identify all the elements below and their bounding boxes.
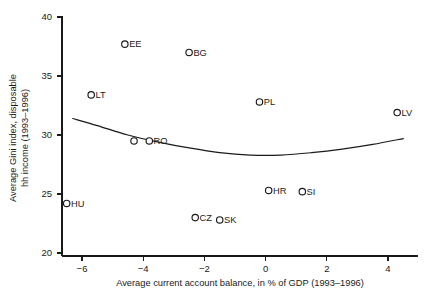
y-tick-label: 35 bbox=[41, 70, 52, 81]
x-tick-label: −4 bbox=[138, 263, 149, 274]
data-point-cz[interactable] bbox=[192, 214, 198, 220]
data-point-hu[interactable] bbox=[63, 200, 69, 206]
data-point-bg[interactable] bbox=[186, 49, 192, 55]
x-tick-label: −6 bbox=[77, 263, 88, 274]
x-axis-title: Average current account balance, in % of… bbox=[116, 278, 364, 288]
data-point-label-sk: SK bbox=[224, 215, 237, 225]
y-axis-title-line-1: Average Gini index, disposable bbox=[8, 74, 18, 202]
x-tick-label: 2 bbox=[324, 263, 329, 274]
data-points-group: HULTEEROBGCZSKPLHRSILV bbox=[63, 39, 412, 225]
data-point-lv[interactable] bbox=[394, 109, 400, 115]
data-point-sk[interactable] bbox=[217, 217, 223, 223]
fit-curve-group bbox=[73, 118, 403, 155]
y-tick-label: 30 bbox=[41, 129, 52, 140]
data-point-label-ee: EE bbox=[129, 39, 141, 49]
data-point-label-cz: CZ bbox=[200, 213, 213, 223]
data-point-unlabeled[interactable] bbox=[131, 138, 137, 144]
x-tick-label: 4 bbox=[385, 263, 390, 274]
data-point-label-si: SI bbox=[307, 187, 316, 197]
data-point-label-lt: LT bbox=[95, 90, 105, 100]
y-tick-label: 40 bbox=[41, 11, 52, 22]
y-tick-label: 20 bbox=[41, 247, 52, 258]
x-tick-label: −2 bbox=[199, 263, 210, 274]
plot-canvas: 2025303540 −6−4−2024 HULTEEROBGCZSKPLHRS… bbox=[0, 0, 425, 304]
y-axis-ticks: 2025303540 bbox=[41, 11, 62, 258]
data-point-lt[interactable] bbox=[88, 92, 94, 98]
data-point-label-bg: BG bbox=[193, 48, 206, 58]
x-axis-ticks: −6−4−2024 bbox=[77, 256, 391, 274]
quadratic-fit-curve bbox=[73, 118, 403, 155]
data-point-label-lv: LV bbox=[401, 108, 412, 118]
axes bbox=[62, 16, 418, 256]
data-point-ee[interactable] bbox=[122, 41, 128, 47]
x-tick-label: 0 bbox=[263, 263, 268, 274]
scatter-plot-figure: 2025303540 −6−4−2024 HULTEEROBGCZSKPLHRS… bbox=[0, 0, 425, 304]
data-point-label-hu: HU bbox=[71, 199, 84, 209]
data-point-ro[interactable] bbox=[146, 138, 152, 144]
data-point-label-ro: RO bbox=[154, 136, 168, 146]
data-point-hr[interactable] bbox=[265, 187, 271, 193]
data-point-label-hr: HR bbox=[273, 186, 287, 196]
data-point-si[interactable] bbox=[299, 188, 305, 194]
data-point-label-pl: PL bbox=[264, 97, 275, 107]
data-point-pl[interactable] bbox=[256, 99, 262, 105]
y-tick-label: 25 bbox=[41, 188, 52, 199]
y-axis-title-line-2: hh income (1993–1996) bbox=[20, 89, 30, 187]
